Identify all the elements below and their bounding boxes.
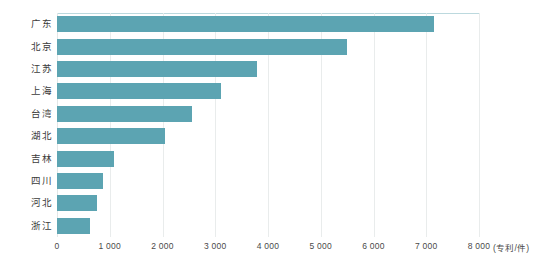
bar-广东[interactable]: [57, 16, 434, 32]
axis-unit-label: (专利/件): [493, 241, 529, 253]
x-tick-label: 2 000: [151, 241, 173, 251]
x-tick-label: 1 000: [99, 241, 121, 251]
x-tick-label: 7 000: [415, 241, 437, 251]
bar-江苏[interactable]: [57, 61, 257, 77]
bar-row[interactable]: [57, 61, 257, 77]
bar-row[interactable]: [57, 106, 192, 122]
category-label-北京: 北京: [6, 39, 52, 55]
bars-layer: [57, 13, 479, 237]
category-label-上海: 上海: [6, 83, 52, 99]
category-label-广东: 广东: [6, 16, 52, 32]
bar-row[interactable]: [57, 128, 165, 144]
category-label-台湾: 台湾: [6, 106, 52, 122]
x-tick-label: 5 000: [310, 241, 332, 251]
bar-湖北[interactable]: [57, 128, 165, 144]
category-axis: 广东北京江苏上海台湾湖北吉林四川河北浙江: [0, 13, 52, 237]
x-tick-label: 3 000: [204, 241, 226, 251]
x-tick-label: 8 000: [468, 241, 490, 251]
bar-chart: 广东北京江苏上海台湾湖北吉林四川河北浙江 01 0002 0003 0004 0…: [0, 0, 556, 266]
bar-北京[interactable]: [57, 39, 347, 55]
x-tick-label: 6 000: [362, 241, 384, 251]
bar-浙江[interactable]: [57, 218, 90, 234]
category-label-四川: 四川: [6, 173, 52, 189]
bar-台湾[interactable]: [57, 106, 192, 122]
bar-row[interactable]: [57, 173, 103, 189]
bar-吉林[interactable]: [57, 151, 114, 167]
category-label-吉林: 吉林: [6, 151, 52, 167]
bar-四川[interactable]: [57, 173, 103, 189]
bar-row[interactable]: [57, 151, 114, 167]
bar-row[interactable]: [57, 195, 97, 211]
x-tick-label: 4 000: [257, 241, 279, 251]
bar-河北[interactable]: [57, 195, 97, 211]
category-label-河北: 河北: [6, 195, 52, 211]
gridline-8000: [479, 13, 480, 237]
x-tick-label: 0: [55, 241, 60, 251]
plot-area: [57, 13, 479, 237]
bar-row[interactable]: [57, 16, 434, 32]
category-label-江苏: 江苏: [6, 61, 52, 77]
category-label-湖北: 湖北: [6, 128, 52, 144]
category-label-浙江: 浙江: [6, 218, 52, 234]
bar-row[interactable]: [57, 83, 221, 99]
bar-row[interactable]: [57, 39, 347, 55]
bar-row[interactable]: [57, 218, 90, 234]
bar-上海[interactable]: [57, 83, 221, 99]
